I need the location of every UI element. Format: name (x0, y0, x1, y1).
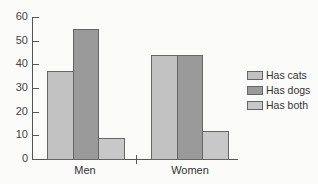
bar-men-has-both (98, 138, 125, 160)
y-tick-label: 20 (6, 105, 28, 117)
y-tick-label: 10 (6, 128, 28, 140)
y-tick-label: 30 (6, 81, 28, 93)
y-tick-mark (33, 64, 39, 65)
y-tick-mark (33, 41, 39, 42)
x-label-women: Women (150, 164, 230, 176)
y-tick-mark (33, 159, 39, 160)
bar-men-has-cats (47, 71, 74, 160)
bar-women-has-cats (151, 55, 178, 160)
bar-women-has-both (202, 131, 229, 160)
bar-men-has-dogs (73, 29, 100, 160)
legend-label-has-both: Has both (266, 99, 308, 111)
legend-swatch-has-dogs (247, 86, 263, 95)
legend-swatch-has-both (247, 101, 263, 110)
bar-women-has-dogs (177, 55, 204, 160)
y-tick-label: 40 (6, 57, 28, 69)
y-tick-mark (33, 112, 39, 113)
y-tick-label: 60 (6, 10, 28, 22)
y-tick-label: 50 (6, 34, 28, 46)
y-tick-mark (33, 88, 39, 89)
legend-swatch-has-cats (247, 71, 263, 80)
y-tick-label: 0 (6, 152, 28, 164)
y-tick-mark (33, 17, 39, 18)
x-group-separator-tick (136, 155, 137, 164)
x-label-men: Men (45, 164, 125, 176)
y-tick-mark (33, 135, 39, 136)
legend-label-has-dogs: Has dogs (266, 84, 310, 96)
legend-label-has-cats: Has cats (266, 69, 307, 81)
